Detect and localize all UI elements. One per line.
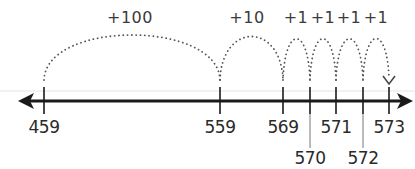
jump-arcs — [44, 35, 389, 80]
landing-arrow-icon — [383, 76, 395, 84]
tick-label-571: 571 — [321, 117, 352, 137]
jump-label-plus-1: +1 — [364, 8, 389, 27]
jump-label-plus-10: +10 — [229, 8, 264, 27]
jump-label-plus-1: +1 — [284, 8, 309, 27]
tick-label-572: 572 — [348, 148, 379, 168]
tick-label-570: 570 — [295, 148, 326, 168]
arc-plus-1-b — [310, 39, 336, 80]
tick-label-569: 569 — [268, 117, 299, 137]
arc-plus-1-c — [336, 39, 363, 80]
arc-plus-1-d — [363, 38, 389, 80]
arc-plus-100 — [44, 35, 220, 80]
number-line — [18, 93, 413, 109]
tick-label-559: 559 — [205, 117, 236, 137]
number-line-diagram: +100 +10 +1 +1 +1 +1 459 559 569 570 571… — [0, 0, 415, 169]
tick-label-459: 459 — [29, 117, 60, 137]
arc-plus-10 — [220, 37, 283, 81]
jump-label-plus-1: +1 — [311, 8, 336, 27]
tick-label-573: 573 — [374, 117, 405, 137]
jump-label-plus-100: +100 — [107, 8, 153, 27]
jump-label-plus-1: +1 — [337, 8, 362, 27]
arc-plus-1-a — [283, 39, 310, 80]
